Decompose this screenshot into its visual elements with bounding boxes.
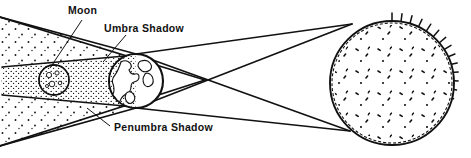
label-penumbra-shadow: Penumbra Shadow	[114, 121, 214, 133]
moon-body	[38, 64, 70, 96]
label-umbra-shadow: Umbra Shadow	[104, 22, 185, 34]
sun-body	[330, 13, 458, 147]
earth-body	[109, 54, 163, 108]
eclipse-diagram: Moon Umbra Shadow Penumbra Shadow	[0, 0, 471, 158]
eclipse-diagram-canvas: Moon Umbra Shadow Penumbra Shadow	[0, 0, 471, 158]
label-moon: Moon	[68, 4, 97, 16]
